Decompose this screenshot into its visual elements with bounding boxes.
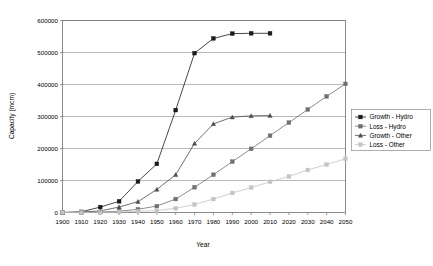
x-tick-label: 2050 (339, 218, 353, 225)
series-growth-hydro (61, 31, 272, 214)
series-line (63, 84, 346, 213)
data-point-marker (136, 199, 140, 203)
x-tick-label: 1910 (74, 218, 88, 225)
data-point-marker (212, 197, 216, 201)
series-growth-other (60, 113, 272, 214)
data-point-marker (98, 210, 102, 214)
data-point-marker (344, 157, 348, 161)
data-point-marker (193, 51, 197, 55)
data-point-marker (79, 211, 83, 215)
data-point-marker (193, 185, 197, 189)
data-point-marker (174, 206, 178, 210)
x-tick-label: 1980 (207, 218, 221, 225)
gridlines (63, 21, 346, 181)
x-tick-label: 1930 (112, 218, 126, 225)
data-point-marker (136, 209, 140, 213)
x-tick-label: 1920 (93, 218, 107, 225)
data-point-marker (287, 174, 291, 178)
data-point-marker (306, 168, 310, 172)
series-line (63, 116, 271, 213)
legend-marker-icon (359, 124, 363, 128)
data-point-marker (61, 211, 65, 215)
data-point-marker (249, 31, 253, 35)
x-axis-title: Year (196, 241, 210, 248)
x-tick-label: 1900 (56, 218, 70, 225)
y-tick-label: 500000 (37, 49, 58, 56)
x-tick-label: 2030 (301, 218, 315, 225)
x-tick-label: 2010 (263, 218, 277, 225)
x-tick-label: 2000 (244, 218, 258, 225)
legend-item-label: Loss - Other (370, 141, 406, 148)
data-point-marker (174, 197, 178, 201)
data-point-marker (268, 31, 272, 35)
data-point-marker (230, 160, 234, 164)
data-point-marker (325, 94, 329, 98)
legend-item-label: Growth - Other (370, 132, 413, 139)
x-tick-label: 1990 (225, 218, 239, 225)
data-point-marker (249, 186, 253, 190)
data-point-marker (268, 134, 272, 138)
data-point-marker (344, 82, 348, 86)
series-loss-hydro (61, 82, 348, 214)
series-line (63, 159, 346, 213)
legend-marker-icon (359, 143, 363, 147)
line-chart: 0100000200000300000400000500000600000 19… (0, 0, 433, 266)
legend-marker-icon (359, 115, 363, 119)
y-tick-label: 300000 (37, 113, 58, 120)
x-tick-label: 1940 (131, 218, 145, 225)
legend-item-label: Loss - Hydro (370, 123, 407, 131)
data-point-marker (155, 204, 159, 208)
data-point-marker (212, 37, 216, 41)
y-axis-title: Capacity (mcm) (8, 93, 16, 139)
data-point-marker (174, 108, 178, 112)
data-point-marker (268, 180, 272, 184)
x-tick-label: 1950 (150, 218, 164, 225)
data-point-marker (230, 191, 234, 195)
legend-item-label: Growth - Hydro (370, 113, 414, 121)
data-point-marker (306, 108, 310, 112)
x-tick-label: 1960 (169, 218, 183, 225)
data-point-marker (230, 32, 234, 36)
data-series (60, 31, 347, 214)
data-point-marker (155, 209, 159, 213)
data-point-marker (136, 180, 140, 184)
chart-legend: Growth - HydroLoss - HydroGrowth - Other… (352, 110, 431, 151)
chart-container: 0100000200000300000400000500000600000 19… (0, 0, 433, 266)
y-tick-label: 100000 (37, 177, 58, 184)
data-point-marker (155, 162, 159, 166)
y-tick-label: 200000 (37, 145, 58, 152)
data-point-marker (117, 210, 121, 214)
series-line (63, 33, 271, 212)
data-point-marker (249, 147, 253, 151)
data-point-marker (287, 121, 291, 125)
y-axis-tick-labels: 0100000200000300000400000500000600000 (37, 17, 62, 216)
data-point-marker (193, 203, 197, 207)
data-point-marker (174, 173, 178, 177)
x-tick-label: 2020 (282, 218, 296, 225)
data-point-marker (212, 173, 216, 177)
data-point-marker (325, 163, 329, 167)
y-tick-label: 600000 (37, 17, 58, 24)
data-point-marker (117, 199, 121, 203)
x-tick-label: 1970 (188, 218, 202, 225)
y-tick-label: 0 (55, 209, 59, 216)
x-tick-label: 2040 (320, 218, 334, 225)
y-tick-label: 400000 (37, 81, 58, 88)
